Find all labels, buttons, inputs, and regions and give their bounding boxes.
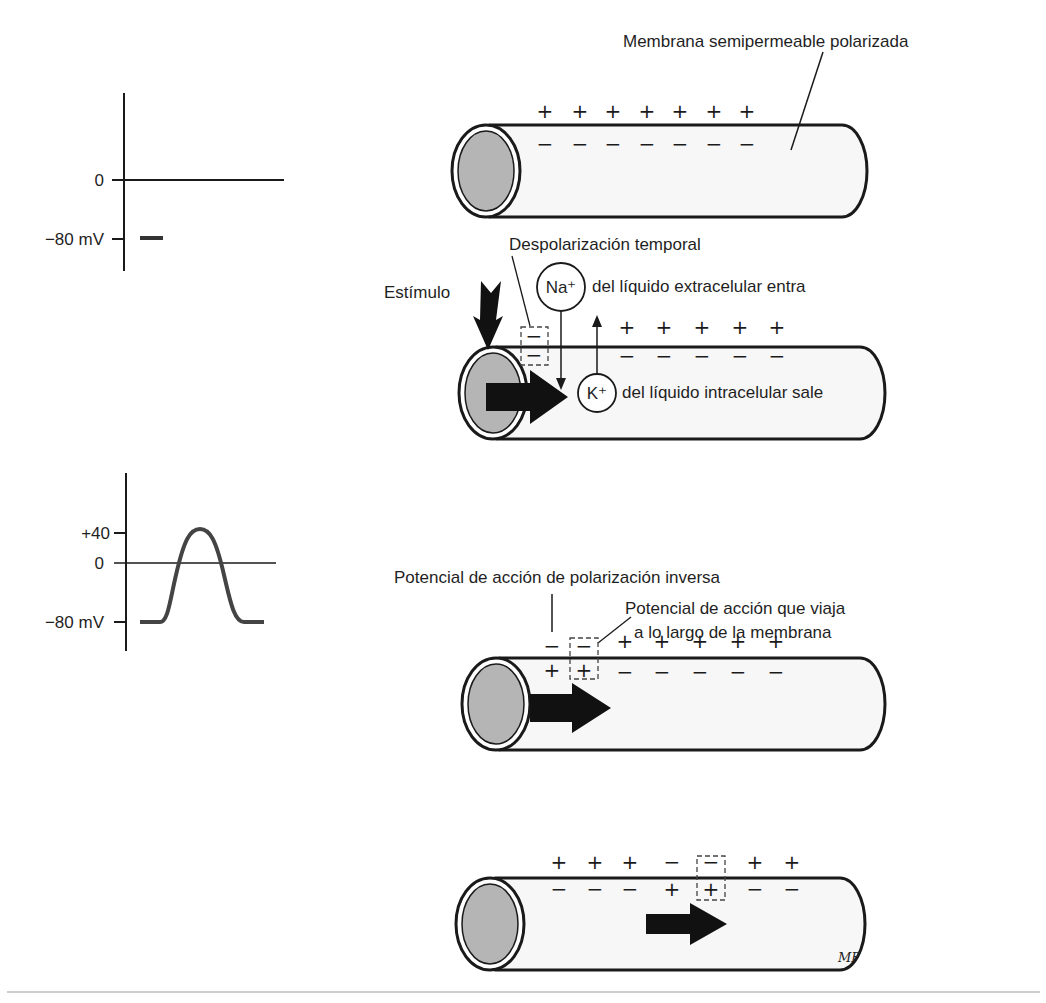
- svg-text:−: −: [706, 132, 723, 156]
- svg-text:−: −: [587, 877, 604, 901]
- action-potential-trace: [140, 529, 264, 622]
- axon-propagation: + + + − − + + − − − + + − − MF: [456, 850, 865, 970]
- svg-text:+: +: [672, 99, 689, 123]
- sodium-text: del líquido extracelular entra: [592, 277, 806, 296]
- svg-text:−: −: [656, 344, 673, 368]
- svg-text:+: +: [739, 99, 756, 123]
- svg-text:+: +: [587, 850, 604, 874]
- svg-text:−: −: [622, 877, 639, 901]
- svg-text:+: +: [784, 850, 801, 874]
- membrane-label: Membrana semipermeable polarizada: [623, 32, 909, 51]
- tick-label-plus40: +40: [81, 524, 110, 543]
- svg-text:−: −: [703, 850, 720, 874]
- svg-text:+: +: [730, 629, 747, 653]
- svg-text:−: −: [694, 344, 711, 368]
- stimulus-label: Estímulo: [384, 283, 450, 302]
- svg-text:+: +: [664, 877, 681, 901]
- svg-text:−: −: [739, 132, 756, 156]
- svg-text:−: −: [572, 132, 589, 156]
- resting-potential-graph: 0 −80 mV: [45, 93, 284, 271]
- axon-core: [458, 131, 514, 211]
- svg-text:−: −: [544, 634, 561, 658]
- svg-text:+: +: [619, 315, 636, 339]
- potassium-ion-label: K⁺: [587, 384, 607, 403]
- svg-text:−: −: [784, 877, 801, 901]
- svg-text:−: −: [639, 132, 656, 156]
- axon-core: [462, 884, 518, 964]
- svg-text:+: +: [544, 658, 561, 682]
- svg-text:−: −: [576, 634, 593, 658]
- travel-label-line1: Potencial de acción que viaja: [625, 599, 846, 618]
- artist-signature: MF: [837, 950, 861, 965]
- svg-text:+: +: [768, 629, 785, 653]
- outer-charges: + + + + + + +: [537, 99, 756, 123]
- svg-text:+: +: [747, 850, 764, 874]
- svg-text:−: −: [747, 877, 764, 901]
- outer-charges: + + + − − + +: [551, 850, 801, 874]
- depolarization-leader-line: [512, 256, 530, 326]
- svg-text:−: −: [730, 660, 747, 684]
- tick-label-0: 0: [95, 171, 104, 190]
- potassium-arrowhead-icon: [592, 315, 602, 327]
- svg-text:−: −: [732, 344, 749, 368]
- tick-label-minus80: −80 mV: [45, 230, 105, 249]
- sodium-ion-label: Na⁺: [546, 278, 577, 297]
- tick-label-0: 0: [95, 554, 104, 573]
- svg-text:−: −: [537, 132, 554, 156]
- outer-charges: + + + + +: [619, 315, 786, 339]
- svg-text:−: −: [526, 343, 543, 367]
- axon-action-potential: Potencial de acción de polarización inve…: [394, 568, 885, 750]
- svg-text:−: −: [654, 660, 671, 684]
- svg-text:+: +: [654, 629, 671, 653]
- action-potential-graph: +40 0 −80 mV: [45, 473, 276, 651]
- inner-charges: − − − + + − −: [551, 877, 801, 901]
- svg-text:−: −: [664, 850, 681, 874]
- svg-text:+: +: [769, 315, 786, 339]
- svg-text:−: −: [769, 344, 786, 368]
- tick-label-minus80: −80 mV: [45, 613, 105, 632]
- svg-text:+: +: [656, 315, 673, 339]
- axon-core: [468, 664, 524, 744]
- svg-text:+: +: [617, 629, 634, 653]
- svg-text:+: +: [703, 877, 720, 901]
- svg-text:+: +: [551, 850, 568, 874]
- svg-text:−: −: [605, 132, 622, 156]
- svg-text:−: −: [768, 660, 785, 684]
- svg-text:−: −: [617, 660, 634, 684]
- svg-text:+: +: [639, 99, 656, 123]
- depolarization-label: Despolarización temporal: [509, 235, 701, 254]
- svg-text:−: −: [672, 132, 689, 156]
- nerve-impulse-diagram: 0 −80 mV +40 0 −80 mV + + + + + + + − − …: [0, 0, 1046, 1003]
- axon-depolarizing: Estímulo − − Despolarización temporal Na…: [384, 235, 885, 439]
- svg-text:+: +: [572, 99, 589, 123]
- svg-text:+: +: [732, 315, 749, 339]
- svg-text:+: +: [706, 99, 723, 123]
- svg-text:+: +: [622, 850, 639, 874]
- svg-text:−: −: [551, 877, 568, 901]
- svg-text:+: +: [537, 99, 554, 123]
- reverse-polarization-label: Potencial de acción de polarización inve…: [394, 568, 721, 587]
- svg-text:+: +: [605, 99, 622, 123]
- svg-text:+: +: [576, 658, 593, 682]
- stimulus-arrow-icon: [473, 281, 503, 350]
- axon-polarized: + + + + + + + − − − − − − − Membrana sem…: [452, 32, 909, 217]
- svg-text:−: −: [619, 344, 636, 368]
- svg-text:+: +: [694, 315, 711, 339]
- potassium-text: del líquido intracelular sale: [622, 383, 823, 402]
- svg-text:+: +: [692, 629, 709, 653]
- svg-text:−: −: [692, 660, 709, 684]
